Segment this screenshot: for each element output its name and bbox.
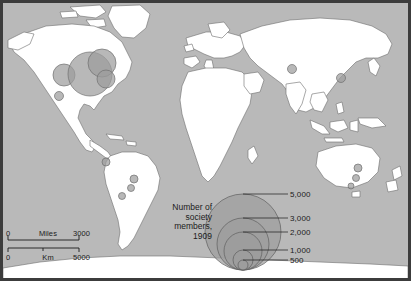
- symbol-rio-de-la-plata: [119, 193, 126, 200]
- legend-label-2000: 2,000: [290, 228, 311, 237]
- symbol-southwestern-us: [55, 92, 64, 101]
- legend-caption: Number of society members, 1909: [150, 203, 212, 241]
- java: [324, 138, 344, 142]
- scalebar-km-unit: Km: [42, 253, 53, 262]
- arctic-island-c: [60, 11, 78, 18]
- symbol-southern-australia: [348, 183, 354, 189]
- symbol-central-asia: [288, 65, 297, 74]
- legend-caption-line-4: 1909: [150, 232, 212, 242]
- symbol-eastern-australia: [354, 164, 362, 172]
- symbol-midatlantic-us: [97, 70, 115, 88]
- tasmania: [352, 191, 360, 197]
- new-zealand-south: [386, 180, 398, 192]
- symbol-east-asia: [337, 74, 346, 83]
- scalebar-miles-unit: Miles: [39, 229, 57, 238]
- scalebar-miles-max: 3000: [73, 229, 90, 238]
- legend-label-500: 500: [290, 256, 304, 265]
- legend-label-1000: 1,000: [290, 246, 311, 255]
- symbol-eastern-brazil: [130, 175, 138, 183]
- sulawesi: [350, 120, 358, 132]
- symbol-northwestern-south-america: [102, 158, 110, 166]
- legend-label-3000: 3,000: [290, 214, 311, 223]
- world-map-figure: 0 Miles 3000 0 Km 5000 Number of society…: [0, 0, 411, 281]
- scalebar-miles-min: 0: [6, 229, 10, 238]
- symbol-southeastern-brazil: [128, 185, 135, 192]
- legend-label-5000: 5,000: [290, 190, 311, 199]
- symbol-southeastern-australia: [353, 175, 360, 182]
- scalebar-km-min: 0: [6, 253, 10, 262]
- caribbean-hispaniola: [126, 141, 136, 146]
- scalebar-km-max: 5000: [73, 253, 90, 262]
- scalebar: 0 Miles 3000 0 Km 5000: [6, 224, 90, 264]
- legend-circle-500: [238, 260, 248, 270]
